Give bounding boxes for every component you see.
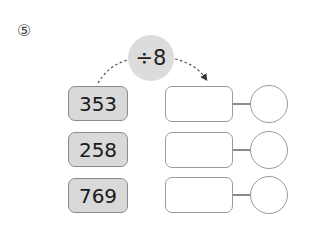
dividend-value: 258 — [79, 138, 117, 162]
connector-line — [233, 194, 250, 196]
dividend-value: 769 — [79, 184, 117, 208]
connector-line — [233, 149, 250, 151]
dashed-arc-left — [98, 60, 127, 83]
dividend-box: 258 — [68, 132, 128, 167]
dividend-value: 353 — [79, 92, 117, 116]
quotient-answer-box[interactable] — [165, 177, 233, 213]
operator-label: ÷8 — [136, 46, 167, 70]
remainder-answer-circle[interactable] — [250, 85, 288, 123]
dividend-box: 353 — [68, 86, 128, 121]
connector-line — [233, 103, 250, 105]
quotient-answer-box[interactable] — [165, 132, 233, 168]
remainder-answer-circle[interactable] — [250, 131, 288, 169]
dividend-box: 769 — [68, 178, 128, 213]
quotient-answer-box[interactable] — [165, 86, 233, 122]
remainder-answer-circle[interactable] — [250, 176, 288, 214]
operator-badge: ÷8 — [128, 35, 174, 81]
dashed-arrow-right-icon — [175, 59, 206, 79]
